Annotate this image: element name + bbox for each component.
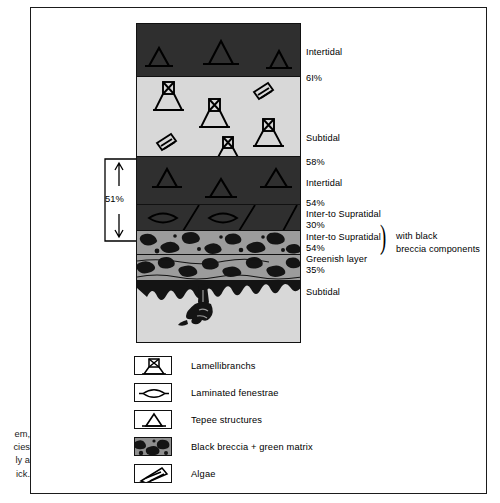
label-percent-35: 35%	[306, 266, 325, 276]
lamellibranch-2	[199, 99, 230, 127]
algae-icon	[134, 464, 172, 483]
figure-frame: 51% Intertidal 6I% Subtidal 58% Intertid…	[30, 7, 487, 494]
black-breccia-texture-2	[137, 255, 300, 280]
figure-page: 51% Intertidal 6I% Subtidal 58% Intertid…	[0, 0, 500, 503]
lamellibranch-and-algae-symbols	[137, 77, 300, 156]
legend-item-algae: Algae	[134, 460, 464, 487]
bed-intertidal-2	[137, 156, 300, 204]
breccia-drip-contact	[137, 280, 300, 300]
label-percent-54-a: 54%	[306, 199, 325, 209]
lamellibranch-3	[253, 119, 284, 146]
laminated-fenestrae-symbols	[137, 205, 300, 230]
tepee-icon	[134, 410, 172, 429]
legend-item-tepee: Tepee structures	[134, 406, 464, 433]
legend-item-fenestrae: Laminated fenestrae	[134, 379, 464, 406]
breccia-icon	[134, 437, 172, 456]
bed-subtidal-1	[137, 76, 300, 156]
bed-breccia-greenish	[137, 254, 300, 280]
label-percent-30: 30%	[306, 221, 325, 231]
lamellibranch-icon	[134, 356, 172, 375]
bed-subtidal-2	[137, 280, 300, 343]
label-percent-61: 6I%	[306, 74, 322, 84]
bracket-label-51: 51%	[105, 193, 124, 204]
algae-2	[157, 134, 176, 150]
lamellibranch-1	[153, 82, 184, 110]
caption-line-2: cies	[0, 441, 30, 454]
fenestrae-icon	[134, 383, 172, 402]
label-percent-54-b: 54%	[306, 244, 325, 254]
grouping-brace: )	[380, 220, 386, 254]
legend: Lamellibranchs Laminated fenestrae	[134, 352, 464, 487]
label-inter-supratidal-2: Inter-to Supratidal	[306, 233, 381, 243]
label-percent-58: 58%	[306, 158, 325, 168]
black-breccia-texture-1	[137, 231, 300, 254]
legend-item-breccia: Black breccia + green matrix	[134, 433, 464, 460]
tepee-symbols-bed1	[137, 24, 300, 76]
tepee-symbols-bed3	[137, 157, 300, 204]
note-breccia-line2: breccia components	[396, 245, 480, 255]
lamellibranch-4	[216, 137, 240, 156]
stratigraphic-column	[136, 23, 301, 343]
label-subtidal-1: Subtidal	[306, 134, 340, 144]
label-greenish-layer: Greenish layer	[306, 255, 367, 265]
label-intertidal-1: Intertidal	[306, 48, 342, 58]
label-subtidal-2: Subtidal	[306, 288, 340, 298]
caption-fragment: em, cies ly a ick.	[0, 428, 30, 481]
legend-label-algae: Algae	[191, 469, 216, 479]
legend-label-fenestrae: Laminated fenestrae	[191, 388, 279, 398]
label-intertidal-2: Intertidal	[306, 179, 342, 189]
caption-line-1: em,	[0, 428, 30, 441]
label-inter-supratidal-1: Inter-to Supratidal	[306, 210, 381, 220]
bed-intertidal-1	[137, 24, 300, 76]
legend-label-breccia: Black breccia + green matrix	[191, 442, 313, 452]
breccia-base-and-burrow	[137, 280, 300, 343]
bed-inter-supratidal-1	[137, 204, 300, 230]
bed-breccia-1	[137, 230, 300, 254]
legend-label-lamellibranchs: Lamellibranchs	[191, 361, 256, 371]
legend-item-lamellibranchs: Lamellibranchs	[134, 352, 464, 379]
algae-1	[254, 83, 273, 99]
note-breccia-line1: with black	[396, 232, 437, 242]
caption-line-3: ly a	[0, 454, 30, 467]
legend-label-tepee: Tepee structures	[191, 415, 262, 425]
caption-line-4: ick.	[0, 468, 30, 481]
